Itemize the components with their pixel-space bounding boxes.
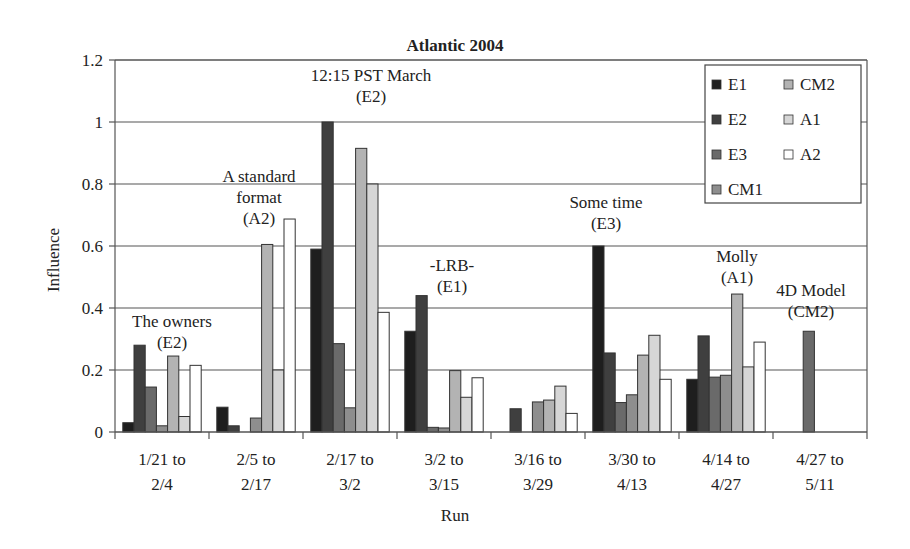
x-tick-label: 3/2 to	[424, 450, 463, 469]
legend-label-a2: A2	[800, 145, 821, 164]
plot-area: 00.20.40.60.811.21/21 to2/42/5 to2/172/1…	[0, 0, 910, 549]
bar-cm2	[732, 294, 743, 432]
bar-e3	[615, 403, 626, 432]
x-tick-label: 3/15	[429, 475, 459, 494]
x-tick-label: 4/13	[617, 475, 647, 494]
annotation-label: 4D Model	[776, 281, 846, 300]
annotation-label: Molly	[716, 247, 758, 266]
legend-swatch-a1	[784, 115, 793, 124]
x-tick-label: 3/2	[339, 475, 361, 494]
annotation-label: (A2)	[243, 209, 275, 228]
bar-e2	[134, 345, 145, 432]
x-tick-label: 2/5 to	[236, 450, 275, 469]
x-tick-label: 3/30 to	[608, 450, 656, 469]
bar-e1	[593, 246, 604, 432]
x-tick-label: 4/27 to	[796, 450, 844, 469]
bar-a2	[660, 379, 671, 432]
annotation-label: (E2)	[356, 87, 386, 106]
bar-e3	[803, 331, 814, 432]
legend-swatch-e3	[712, 150, 721, 159]
x-tick-label: 3/16 to	[514, 450, 562, 469]
annotation-label: (A1)	[721, 268, 753, 287]
bar-e1	[217, 407, 228, 432]
bar-cm1	[344, 408, 355, 432]
y-tick-label: 0	[95, 423, 104, 442]
x-tick-label: 4/27	[711, 475, 742, 494]
bar-cm2	[168, 356, 179, 432]
bar-a2	[754, 342, 765, 432]
bar-a1	[461, 397, 472, 432]
y-tick-label: 0.6	[82, 237, 103, 256]
bar-group	[593, 246, 671, 432]
bar-e2	[228, 426, 239, 432]
legend-label-e1: E1	[728, 75, 747, 94]
bar-e1	[405, 331, 416, 432]
bar-a1	[367, 184, 378, 432]
annotation-label: 12:15 PST March	[311, 66, 432, 85]
bar-cm2	[638, 355, 649, 432]
bar-a1	[743, 367, 754, 432]
bar-cm2	[450, 371, 461, 432]
y-tick-label: 0.8	[82, 175, 103, 194]
bar-e3	[333, 344, 344, 432]
bar-e3	[709, 377, 720, 432]
legend-swatch-cm1	[712, 185, 721, 194]
y-tick-label: 1	[95, 113, 104, 132]
annotation-label: -LRB-	[430, 256, 475, 275]
bar-e1	[123, 423, 134, 432]
bar-cm1	[532, 402, 543, 432]
legend: E1E2E3CM1CM2A1A2	[705, 65, 861, 203]
bar-a1	[179, 417, 190, 433]
bar-cm1	[626, 395, 637, 432]
annotation-label: (CM2)	[788, 302, 834, 321]
x-tick-label: 2/4	[151, 475, 173, 494]
legend-swatch-e1	[712, 80, 721, 89]
legend-swatch-e2	[712, 115, 721, 124]
bar-e2	[322, 122, 333, 432]
x-tick-label: 3/29	[523, 475, 553, 494]
bar-group	[123, 345, 201, 432]
x-tick-label: 4/14 to	[702, 450, 750, 469]
bar-group	[405, 296, 483, 432]
annotation-label: (E1)	[437, 277, 467, 296]
bar-group	[217, 219, 295, 432]
annotation-label: format	[236, 188, 282, 207]
bar-a2	[284, 219, 295, 432]
legend-swatch-a2	[784, 150, 793, 159]
bar-cm1	[720, 375, 731, 432]
annotation-label: Some time	[569, 193, 642, 212]
legend-label-e2: E2	[728, 110, 747, 129]
bar-e3	[145, 387, 156, 432]
x-tick-label: 1/21 to	[138, 450, 186, 469]
bar-a1	[555, 386, 566, 432]
bar-cm2	[356, 148, 367, 432]
bar-group	[687, 294, 765, 432]
y-tick-label: 0.2	[82, 361, 103, 380]
annotation-label: (E3)	[591, 214, 621, 233]
legend-label-cm2: CM2	[800, 75, 835, 94]
bar-group	[803, 331, 814, 432]
bar-cm1	[250, 418, 261, 432]
legend-label-a1: A1	[800, 110, 821, 129]
bar-e1	[687, 379, 698, 432]
legend-label-cm1: CM1	[728, 180, 763, 199]
bar-e2	[416, 296, 427, 432]
legend-label-e3: E3	[728, 145, 747, 164]
annotation-label: (E2)	[157, 333, 187, 352]
bar-e1	[311, 249, 322, 432]
bar-a1	[273, 370, 284, 432]
bar-a2	[378, 312, 389, 432]
legend-swatch-cm2	[784, 80, 793, 89]
bar-e2	[510, 409, 521, 432]
bar-cm2	[544, 400, 555, 432]
bar-e2	[604, 353, 615, 432]
annotation-label: A standard	[222, 167, 296, 186]
bar-a1	[649, 335, 660, 432]
x-tick-label: 5/11	[805, 475, 835, 494]
y-tick-label: 1.2	[82, 51, 103, 70]
bar-group	[510, 386, 577, 432]
y-tick-label: 0.4	[82, 299, 104, 318]
bar-a2	[566, 413, 577, 432]
chart-container: Atlantic 2004 Influence Run 00.20.40.60.…	[0, 0, 910, 549]
bar-a2	[472, 378, 483, 432]
